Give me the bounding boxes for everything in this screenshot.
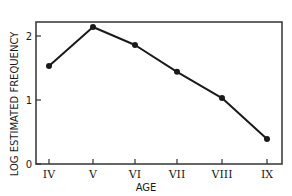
y-tick-label: 2 bbox=[26, 31, 32, 42]
x-tick-label: VIII bbox=[211, 168, 233, 181]
y-axis-title: LOG ESTIMATED FREQUENCY bbox=[9, 31, 20, 177]
y-tick-label: 1 bbox=[26, 95, 32, 106]
data-series bbox=[46, 24, 270, 142]
x-tick-label: VII bbox=[168, 168, 186, 181]
data-point bbox=[174, 69, 180, 75]
x-tick-label: V bbox=[88, 168, 98, 181]
data-point bbox=[132, 42, 138, 48]
x-tick-label: IV bbox=[43, 168, 56, 181]
plot-frame bbox=[36, 22, 282, 164]
y-tick-label: 0 bbox=[26, 159, 32, 170]
plot-border bbox=[36, 22, 282, 164]
y-axis: 012 bbox=[26, 31, 41, 170]
x-axis-title: AGE bbox=[136, 182, 157, 193]
x-axis: IVVVIVIIVIIIIX bbox=[43, 159, 273, 181]
line-chart: 012 IVVVIVIIVIIIIX AGE LOG ESTIMATED FRE… bbox=[0, 0, 292, 196]
x-tick-label: IX bbox=[261, 168, 273, 181]
x-tick-label: VI bbox=[128, 168, 141, 181]
data-point bbox=[46, 63, 52, 69]
data-point bbox=[219, 95, 225, 101]
data-point bbox=[90, 24, 96, 30]
series-line bbox=[49, 27, 267, 139]
data-point bbox=[264, 136, 270, 142]
